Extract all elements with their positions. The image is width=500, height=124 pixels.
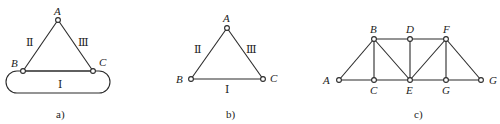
node-c-D [408, 37, 413, 42]
edge-c-FG2 [446, 39, 481, 80]
label-c-G: G [442, 84, 450, 96]
node-c-G2 [479, 78, 484, 83]
edge-c-BE [374, 39, 410, 80]
region-a-I: Ⅰ [58, 78, 62, 90]
node-c-C [372, 78, 377, 83]
figure-b: A B C Ⅱ Ⅲ Ⅰ b) [176, 12, 278, 121]
region-b-III: Ⅲ [246, 43, 257, 55]
edge-b-AC [227, 28, 263, 79]
label-c-D: D [405, 23, 414, 35]
diagram-canvas: A B C Ⅱ Ⅲ Ⅰ a) A B C Ⅱ Ⅲ Ⅰ b) [0, 0, 500, 124]
caption-c: c) [414, 108, 423, 121]
node-c-A [337, 78, 342, 83]
node-c-E [408, 78, 413, 83]
label-c-A: A [322, 74, 330, 86]
label-a-B: B [11, 57, 18, 69]
label-b-B: B [176, 73, 183, 85]
region-a-II: Ⅱ [26, 36, 33, 48]
label-b-A: A [222, 12, 230, 24]
label-c-G2: G [489, 74, 497, 86]
node-b-A [225, 26, 230, 31]
label-c-C: C [370, 84, 378, 96]
figure-c: A B C D E F G G c) [322, 23, 497, 121]
figure-a: A B C Ⅱ Ⅲ Ⅰ a) [6, 5, 110, 121]
label-b-C: C [270, 72, 278, 84]
region-a-III: Ⅲ [78, 36, 89, 48]
label-a-A: A [53, 5, 61, 17]
node-c-G [444, 78, 449, 83]
label-c-F: F [442, 23, 450, 35]
node-c-F [444, 37, 449, 42]
label-c-B: B [370, 23, 377, 35]
node-b-B [189, 77, 194, 82]
edge-c-EF [410, 39, 446, 80]
label-a-C: C [99, 56, 107, 68]
node-a-B [21, 69, 26, 74]
region-b-I: Ⅰ [225, 83, 229, 95]
label-c-E: E [405, 84, 413, 96]
node-b-C [261, 77, 266, 82]
node-c-B [372, 37, 377, 42]
node-a-C [91, 69, 96, 74]
caption-a: a) [56, 108, 65, 121]
edge-c-AB [339, 39, 374, 80]
node-a-A [56, 18, 61, 23]
region-b-II: Ⅱ [194, 43, 201, 55]
caption-b: b) [226, 108, 236, 121]
